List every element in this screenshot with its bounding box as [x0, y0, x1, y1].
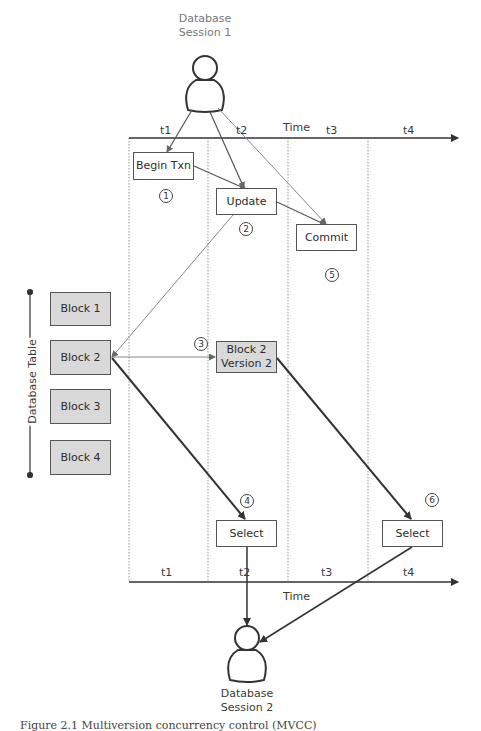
top-period-t2: t2	[236, 124, 247, 137]
session-2-label: Database Session 2	[217, 687, 277, 715]
top-period-t3: t3	[326, 124, 337, 137]
bottom-period-t3: t3	[321, 566, 332, 579]
step-3-marker: 3	[194, 337, 208, 351]
figure-caption: Figure 2.1 Multiversion concurrency cont…	[20, 719, 317, 731]
step-1-marker: 1	[159, 189, 173, 203]
session-2-line1: Database	[217, 687, 277, 701]
step-4-marker: 4	[240, 494, 254, 508]
block-3: Block 3	[50, 389, 111, 424]
bottom-period-t4: t4	[403, 566, 414, 579]
session-1-label: Database Session 1	[175, 12, 235, 40]
begin-txn-box: Begin Txn	[133, 152, 194, 180]
database-table-label: Database Table	[26, 337, 39, 425]
arrow-update-block2	[112, 215, 233, 357]
block-3-label: Block 3	[60, 400, 100, 414]
session-1-line2: Session 1	[175, 26, 235, 40]
arrow-begin-update	[194, 166, 246, 189]
bottom-time-label: Time	[283, 590, 310, 603]
commit-box: Commit	[296, 224, 357, 251]
block-2: Block 2	[50, 340, 111, 375]
commit-label: Commit	[305, 231, 348, 245]
arrow-version2-select-t4	[277, 358, 411, 519]
top-period-t4: t4	[403, 124, 414, 137]
block-2-version-2-line2: Version 2	[221, 357, 272, 371]
session-1-line1: Database	[175, 12, 235, 26]
step-6-marker: 6	[425, 493, 439, 507]
begin-txn-label: Begin Txn	[136, 159, 191, 173]
arrow-update-commit	[277, 202, 326, 225]
step-5-marker: 5	[325, 268, 339, 282]
select-t4-box: Select	[382, 520, 443, 547]
select-t2-box: Select	[216, 520, 277, 547]
block-1: Block 1	[50, 292, 111, 326]
session-2-line2: Session 2	[217, 701, 277, 715]
block-4: Block 4	[50, 440, 111, 475]
arrow-block2-select-t2	[112, 358, 245, 519]
block-2-label: Block 2	[60, 351, 100, 365]
update-box: Update	[216, 188, 277, 215]
block-1-label: Block 1	[60, 302, 100, 316]
block-4-label: Block 4	[60, 451, 100, 465]
bottom-period-t1: t1	[161, 566, 172, 579]
select-t2-label: Select	[230, 527, 264, 541]
step-2-marker: 2	[239, 222, 253, 236]
person-icon-session-2	[228, 626, 266, 682]
bottom-period-t2: t2	[239, 566, 250, 579]
block-2-version-2-box: Block 2 Version 2	[216, 341, 277, 373]
top-time-label: Time	[283, 121, 310, 134]
top-period-t1: t1	[160, 124, 171, 137]
block-2-version-2-line1: Block 2	[226, 343, 266, 357]
select-t4-label: Select	[396, 527, 430, 541]
person-icon-session-1	[186, 56, 224, 112]
update-label: Update	[227, 195, 267, 209]
